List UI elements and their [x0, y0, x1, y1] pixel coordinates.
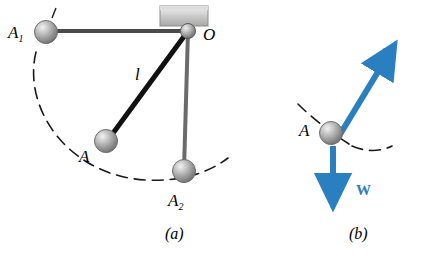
ball-A2: [173, 160, 196, 183]
label-A1-main: A: [8, 23, 18, 42]
label-A2-subscript: 2: [178, 201, 183, 212]
label-rod-length: l: [135, 66, 140, 83]
label-vector-W: W: [356, 183, 371, 198]
ball-A-panel-b: [320, 122, 343, 145]
label-vector-P: P: [383, 46, 392, 61]
label-O: O: [203, 26, 215, 43]
pivot-bracket: [160, 6, 208, 26]
rod-to-A: [108, 31, 188, 140]
swing-arc-dashed-b-right: [352, 146, 392, 151]
label-A2: A2: [168, 192, 183, 212]
label-A: A: [79, 148, 89, 165]
ball-A1: [35, 21, 58, 44]
caption-panel-a: (a): [165, 226, 184, 242]
tick-mark: [52, 8, 56, 18]
pivot-point-O: [181, 24, 196, 39]
label-A-panel-b: A: [299, 122, 309, 139]
rod-to-A2: [184, 31, 188, 170]
swing-arc-dashed: [34, 52, 228, 180]
label-A2-main: A: [168, 191, 178, 210]
ball-A: [95, 130, 118, 153]
vector-P-arrow: [336, 62, 384, 141]
caption-panel-b: (b): [349, 226, 368, 242]
label-A1-subscript: 1: [18, 33, 23, 44]
label-A1: A1: [8, 24, 23, 44]
figure-container: A1 A2 A O l (a) A P W (b): [0, 0, 421, 273]
